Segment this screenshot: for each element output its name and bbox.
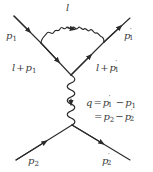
arrow-p1 bbox=[14, 16, 29, 31]
label-lp1-sub: 1 bbox=[32, 67, 36, 75]
label-q-line2: =p2−p′2 bbox=[93, 112, 137, 124]
label-q1-b-sub: 1 bbox=[132, 102, 136, 110]
label-l-plus-p1prime: l+p′1 bbox=[96, 63, 122, 73]
label-p2prime: p′2 bbox=[102, 156, 114, 166]
photon-loop-l bbox=[41, 27, 104, 43]
label-p1prime-sub: 1 bbox=[129, 35, 133, 42]
label-q1-a-sub: 1 bbox=[108, 102, 112, 109]
label-q-eq2: = bbox=[93, 111, 103, 122]
label-l-text: l bbox=[66, 2, 69, 13]
label-loop-l: l bbox=[66, 3, 69, 13]
label-q-line1: q=p′1−p1 bbox=[86, 98, 136, 110]
label-p1prime: p′1 bbox=[124, 31, 136, 41]
label-lp1p-sub: 1 bbox=[115, 67, 119, 74]
label-q1-minus: − bbox=[115, 97, 125, 108]
arrow-p1prime bbox=[104, 27, 120, 42]
label-p2prime-sub: 2 bbox=[107, 160, 111, 167]
label-p2: p2 bbox=[28, 156, 39, 168]
label-lp1-op: + bbox=[15, 62, 25, 73]
label-q2-b-sub: 2 bbox=[130, 116, 134, 123]
label-q2-minus: − bbox=[114, 111, 124, 122]
label-p1: p1 bbox=[6, 31, 17, 43]
feynman-diagram bbox=[0, 0, 153, 172]
arrow-p2prime bbox=[72, 125, 102, 143]
arrow-l-plus-p1prime bbox=[71, 56, 90, 75]
label-q-eq1: = bbox=[92, 97, 102, 108]
label-lp1p-op: + bbox=[99, 62, 109, 73]
label-p2-sub: 2 bbox=[34, 160, 38, 168]
arrow-l-plus-p1 bbox=[41, 43, 58, 61]
label-p1-sub: 1 bbox=[12, 35, 16, 43]
label-l-plus-p1: l+p1 bbox=[12, 63, 36, 75]
